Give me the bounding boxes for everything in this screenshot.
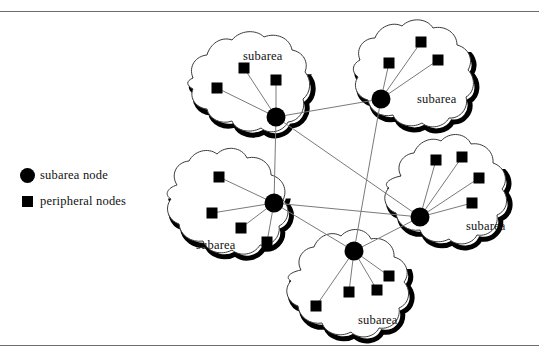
legend-label-peripheral-nodes: peripheral nodes: [40, 194, 126, 209]
filled-circle-icon: [14, 168, 40, 183]
peripheral-node-bottom-3: [311, 301, 322, 312]
peripheral-node-top-right-0: [384, 58, 395, 69]
subarea-label-right: subarea: [466, 219, 506, 234]
legend: subarea node peripheral nodes: [14, 162, 184, 214]
legend-item-peripheral-nodes: peripheral nodes: [14, 188, 184, 214]
subarea-node-middle-left: [265, 194, 284, 213]
peripheral-node-right-0: [431, 155, 442, 166]
subarea-label-bottom: subarea: [358, 313, 398, 328]
subarea-node-top-left: [267, 108, 286, 127]
peripheral-node-middle-left-0: [214, 172, 225, 183]
subarea-node-top-right: [372, 90, 391, 109]
peripheral-node-top-right-2: [433, 55, 444, 66]
peripheral-node-bottom-0: [384, 271, 395, 282]
peripheral-node-bottom-1: [344, 287, 355, 298]
subarea-label-middle-left: subarea: [196, 238, 236, 253]
peripheral-node-right-2: [474, 173, 485, 184]
backbone-link-top-right-bottom: [354, 99, 381, 251]
filled-square-icon: [14, 196, 40, 207]
subarea-label-top-left: subarea: [243, 49, 283, 64]
subarea-node-right: [411, 208, 430, 227]
backbone-link-top-left-right: [276, 117, 420, 217]
subarea-label-top-right: subarea: [417, 92, 457, 107]
peripheral-node-right-3: [467, 198, 478, 209]
peripheral-node-top-right-1: [416, 37, 427, 48]
peripheral-node-middle-left-2: [236, 223, 247, 234]
peripheral-node-bottom-2: [372, 285, 383, 296]
figure-canvas: subareasubareasubareasubareasubarea suba…: [0, 0, 539, 357]
peripheral-node-right-1: [457, 152, 468, 163]
peripheral-node-top-left-2: [271, 75, 282, 86]
legend-label-subarea-node: subarea node: [40, 168, 108, 183]
peripheral-node-middle-left-3: [262, 237, 273, 248]
legend-item-subarea-node: subarea node: [14, 162, 184, 188]
peripheral-node-top-left-1: [239, 63, 250, 74]
blob-outline-top-left: [188, 32, 310, 132]
peripheral-node-middle-left-1: [207, 208, 218, 219]
peripheral-node-top-left-0: [212, 83, 223, 94]
subarea-node-bottom: [345, 242, 364, 261]
